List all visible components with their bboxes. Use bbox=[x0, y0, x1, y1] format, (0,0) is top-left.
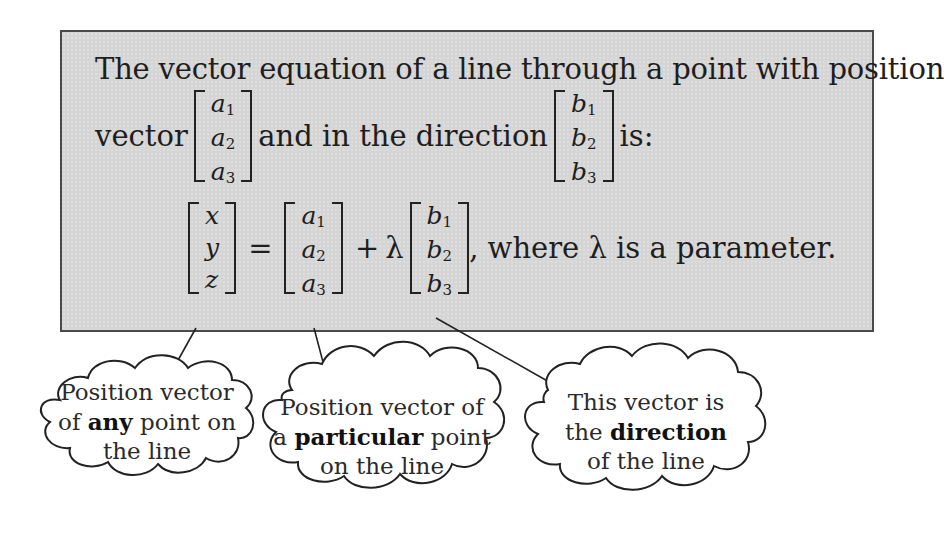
emphasis-direction: direction bbox=[610, 418, 727, 445]
callout-pointer-particular bbox=[314, 328, 323, 362]
callout-particular-point: Position vector of a particular point on… bbox=[272, 393, 492, 481]
emphasis-particular: particular bbox=[294, 423, 423, 450]
emphasis-any: any bbox=[88, 408, 133, 435]
callout-any-point: Position vector of any point on the line bbox=[52, 378, 242, 466]
callout-direction: This vector is the direction of the line bbox=[548, 388, 744, 476]
callout-pointer-any bbox=[177, 328, 196, 362]
